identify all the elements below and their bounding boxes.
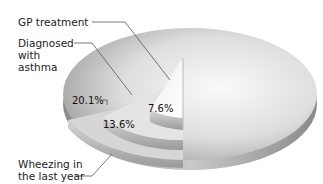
- value-wheezing: 20.1%: [72, 95, 104, 106]
- value-gp: 7.6%: [148, 103, 173, 114]
- label-gp-treatment: GP treatment: [18, 16, 88, 28]
- label-wheezing: Wheezing in the last year: [18, 158, 84, 182]
- value-diagnosed: 13.6%: [103, 119, 135, 130]
- label-diagnosed-asthma: Diagnosed with asthma: [18, 37, 74, 73]
